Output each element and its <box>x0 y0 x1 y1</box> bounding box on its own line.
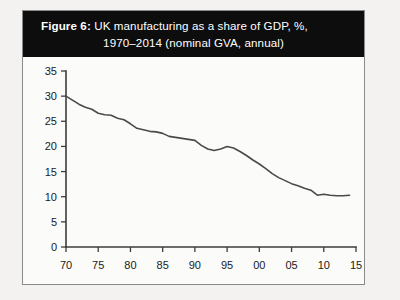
figure-number-label: Figure 6: <box>41 19 91 32</box>
y-tick-label: 20 <box>45 140 57 152</box>
x-tick-label: 90 <box>189 259 201 271</box>
figure-card: Figure 6: UK manufacturing as a share of… <box>22 10 365 285</box>
figure-title-line-2: 1970–2014 (nominal GVA, annual) <box>37 34 350 51</box>
x-tick-label: 10 <box>318 259 330 271</box>
x-tick-label: 70 <box>60 259 72 271</box>
x-tick-label: 05 <box>285 259 297 271</box>
y-tick-label: 5 <box>51 216 57 228</box>
x-tick-label: 80 <box>124 259 136 271</box>
figure-title-banner: Figure 6: UK manufacturing as a share of… <box>23 11 364 57</box>
y-axis-tick-labels: 05101520253035 <box>45 65 57 253</box>
figure-title-line-1: Figure 6: UK manufacturing as a share of… <box>37 17 350 34</box>
x-axis-tick-labels: 70758085909500051015 <box>60 259 362 271</box>
y-tick-label: 30 <box>45 90 57 102</box>
y-tick-label: 15 <box>45 166 57 178</box>
y-tick-label: 0 <box>51 241 57 253</box>
x-tick-label: 85 <box>157 259 169 271</box>
y-tick-label: 10 <box>45 191 57 203</box>
x-tick-label: 95 <box>221 259 233 271</box>
x-tick-label: 00 <box>253 259 265 271</box>
figure-title-text-1: UK manufacturing as a share of GDP, %, <box>94 19 308 32</box>
data-series-line <box>66 96 350 196</box>
x-tick-label: 15 <box>350 259 362 271</box>
y-tick-label: 35 <box>45 65 57 77</box>
x-tick-label: 75 <box>92 259 104 271</box>
chart-plot-area: 05101520253035 70758085909500051015 <box>23 57 364 284</box>
line-chart-svg: 05101520253035 70758085909500051015 <box>23 57 364 284</box>
y-tick-label: 25 <box>45 115 57 127</box>
